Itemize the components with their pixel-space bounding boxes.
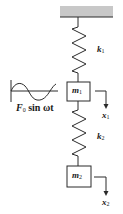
mass-symbol: m: [72, 85, 79, 95]
mass-subscript: 1: [79, 89, 82, 95]
force-expression: sin ωt: [28, 102, 53, 113]
mass-label-m1: m1: [72, 86, 82, 95]
displacement-arrow-x2: [94, 177, 109, 196]
displacement-subscript: 1: [107, 114, 110, 120]
ceiling-support: [60, 6, 113, 17]
displacement-label-x2: x2: [102, 198, 110, 207]
spring-k1: [72, 17, 86, 82]
sine-curve: [11, 83, 56, 100]
displacement-label-x1: x1: [102, 111, 110, 120]
displacement-arrow-x1: [95, 91, 109, 109]
forcing-label: F0 sin ωt: [16, 103, 54, 113]
spring-label-k1: k1: [97, 45, 105, 54]
mass-symbol: m: [72, 170, 79, 180]
spring-subscript: 2: [102, 135, 105, 141]
mass-subscript: 2: [79, 174, 82, 180]
mass-label-m2: m2: [72, 171, 82, 180]
sine-wave-icon: [11, 80, 58, 102]
spring-mass-diagram: k1 k2 m1 m2 x1 x2 F0 sin ωt: [0, 0, 123, 214]
ceiling-fill: [60, 6, 113, 17]
arrowhead-down-icon: [104, 104, 109, 109]
spring-label-k2: k2: [97, 132, 105, 141]
arrowhead-down-icon: [104, 191, 109, 196]
displacement-subscript: 2: [107, 201, 110, 207]
spring-subscript: 1: [102, 48, 105, 54]
spring-k2: [72, 101, 86, 166]
force-subscript: 0: [23, 107, 26, 113]
force-symbol: F: [16, 102, 23, 113]
